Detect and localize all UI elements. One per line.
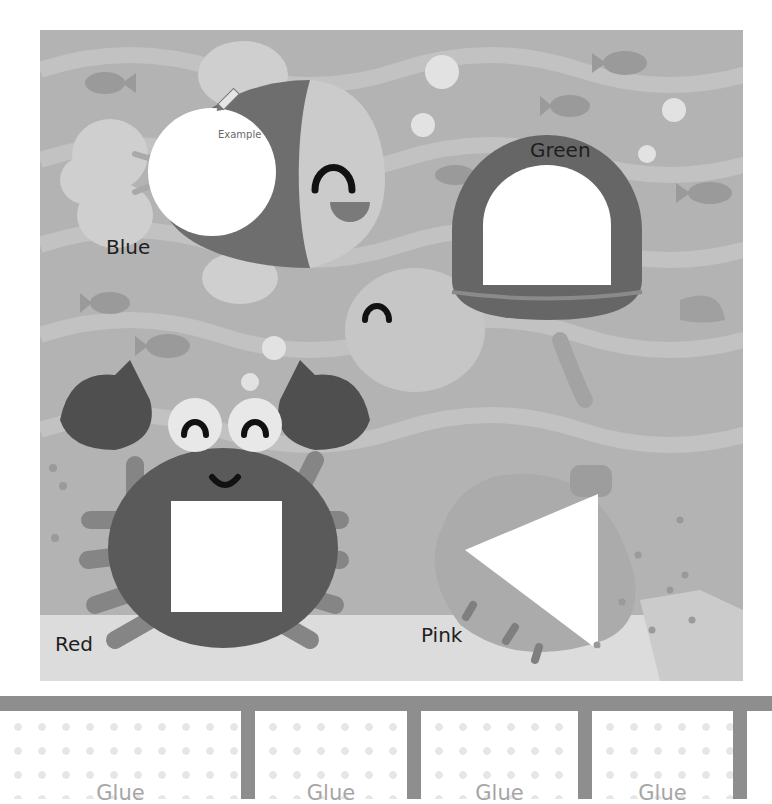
glue-label: Glue: [0, 781, 241, 804]
glue-box-2[interactable]: Glue: [255, 711, 407, 799]
divider: [578, 696, 592, 799]
glue-strip-border: [0, 696, 772, 711]
color-label-green: Green: [530, 138, 591, 162]
semicircle-cutout[interactable]: [443, 190, 571, 285]
glue-label: Glue: [592, 781, 733, 804]
glue-box-4[interactable]: Glue: [592, 711, 733, 799]
divider: [407, 696, 421, 799]
glue-label: Glue: [255, 781, 407, 804]
triangle-cutout[interactable]: [465, 494, 598, 650]
glue-label: Glue: [421, 781, 578, 804]
square-cutout[interactable]: [171, 501, 282, 612]
divider: [241, 696, 255, 799]
glue-box-3[interactable]: Glue: [421, 711, 578, 799]
color-label-blue: Blue: [106, 235, 150, 259]
glue-box-1[interactable]: Glue: [0, 711, 241, 799]
color-label-red: Red: [55, 632, 93, 656]
circle-cutout[interactable]: [148, 108, 276, 236]
ocean-scene: Blue Example Green Red Pink: [40, 30, 743, 681]
divider: [733, 696, 747, 799]
ocean-illustration: [40, 30, 743, 681]
color-label-pink: Pink: [421, 623, 462, 647]
